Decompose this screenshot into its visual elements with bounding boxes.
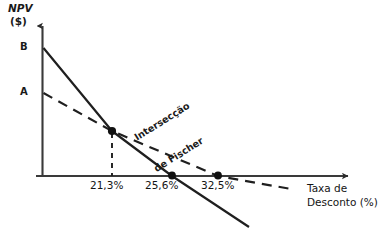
figure-npv-profile: NPV ($) B A Intersecção de Fischer 21,3%…: [0, 0, 391, 242]
fischer-point-marker: [108, 127, 116, 135]
y-axis-title-npv: NPV: [8, 3, 33, 15]
fischer-annotation-line-1: Intersecção: [132, 100, 192, 144]
x-axis-title-line-1: Taxa de: [307, 181, 347, 195]
y-axis-title-units: ($): [10, 16, 27, 28]
x-axis-title-line-2: Desconto (%): [307, 195, 378, 209]
y-intercept-label-a: A: [20, 86, 28, 97]
x-tick-label-irr-a: 32,5%: [201, 180, 234, 192]
fischer-annotation-line-2: de Fischer: [152, 132, 212, 176]
x-tick-label-irr-b: 25,6%: [145, 180, 178, 192]
x-tick-label-fischer-rate: 21,3%: [90, 180, 123, 192]
y-intercept-label-b: B: [20, 41, 28, 52]
